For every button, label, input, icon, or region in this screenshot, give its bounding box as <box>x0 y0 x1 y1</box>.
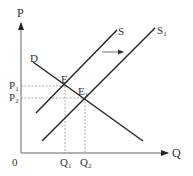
supply-curve-shifted <box>42 28 155 141</box>
demand-curve <box>33 62 143 141</box>
origin-label: 0 <box>12 156 18 168</box>
price-p2-label: P2 <box>9 91 19 105</box>
x-axis-label: Q <box>172 146 181 160</box>
y-axis-label: P <box>17 6 24 20</box>
quantity-q2-label: Q2 <box>80 156 92 170</box>
supply-curve <box>36 30 117 113</box>
equilibrium-e1-label: E1 <box>78 85 89 99</box>
quantity-q1-label: Q1 <box>60 156 72 170</box>
supply-label: S <box>118 25 124 37</box>
supply-demand-diagram: P Q 0 D S S1 E E1 P1 P2 Q1 Q2 <box>0 0 193 176</box>
equilibrium-e-label: E <box>61 73 68 85</box>
demand-label: D <box>30 52 38 64</box>
supply-shifted-label: S1 <box>157 24 167 38</box>
